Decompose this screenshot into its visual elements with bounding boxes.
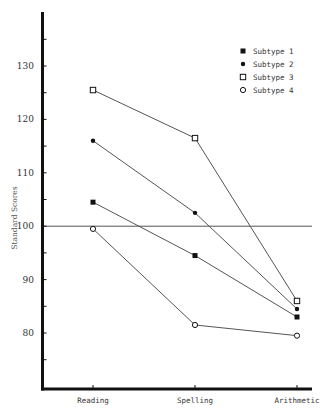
legend-label: Subtype 4 — [253, 86, 294, 95]
filled-circle-marker — [91, 139, 95, 143]
open-circle-marker — [90, 226, 95, 231]
x-tick-label-arithmetic: Arithmetic — [274, 396, 319, 405]
filled-circle-marker — [193, 211, 197, 215]
open-square-marker — [294, 298, 299, 303]
series-subtype-1 — [91, 200, 300, 320]
filled-square-marker — [241, 49, 246, 54]
open-circle-marker — [192, 322, 197, 327]
series-line — [93, 90, 297, 301]
filled-square-marker — [91, 200, 96, 205]
y-tick-label: 100 — [17, 221, 34, 231]
open-square-marker — [90, 87, 95, 92]
open-circle-marker — [294, 333, 299, 338]
line-chart: 8090100110120130Standard ScoresReadingSp… — [0, 0, 327, 415]
open-square-marker — [192, 135, 197, 140]
filled-square-marker — [193, 253, 198, 258]
series-line — [93, 202, 297, 317]
open-circle-marker — [240, 87, 245, 92]
legend-label: Subtype 1 — [253, 47, 294, 56]
legend: Subtype 1Subtype 2Subtype 3Subtype 4 — [240, 47, 294, 95]
legend-label: Subtype 2 — [253, 60, 294, 69]
filled-circle-marker — [241, 62, 245, 66]
y-tick-label: 90 — [23, 275, 35, 285]
y-tick-label: 80 — [23, 328, 35, 338]
y-axis-title: Standard Scores — [10, 186, 19, 249]
y-tick-label: 120 — [17, 114, 34, 124]
series-subtype-3 — [90, 87, 299, 303]
x-tick-label-reading: Reading — [77, 396, 109, 405]
filled-circle-marker — [295, 307, 299, 311]
y-tick-label: 130 — [17, 61, 34, 71]
filled-square-marker — [295, 314, 300, 319]
series-line — [93, 229, 297, 336]
series-subtype-2 — [91, 139, 299, 312]
x-tick-label-spelling: Spelling — [177, 396, 213, 405]
open-square-marker — [240, 74, 245, 79]
series-line — [93, 141, 297, 309]
legend-label: Subtype 3 — [253, 73, 294, 82]
y-tick-label: 110 — [17, 168, 34, 178]
